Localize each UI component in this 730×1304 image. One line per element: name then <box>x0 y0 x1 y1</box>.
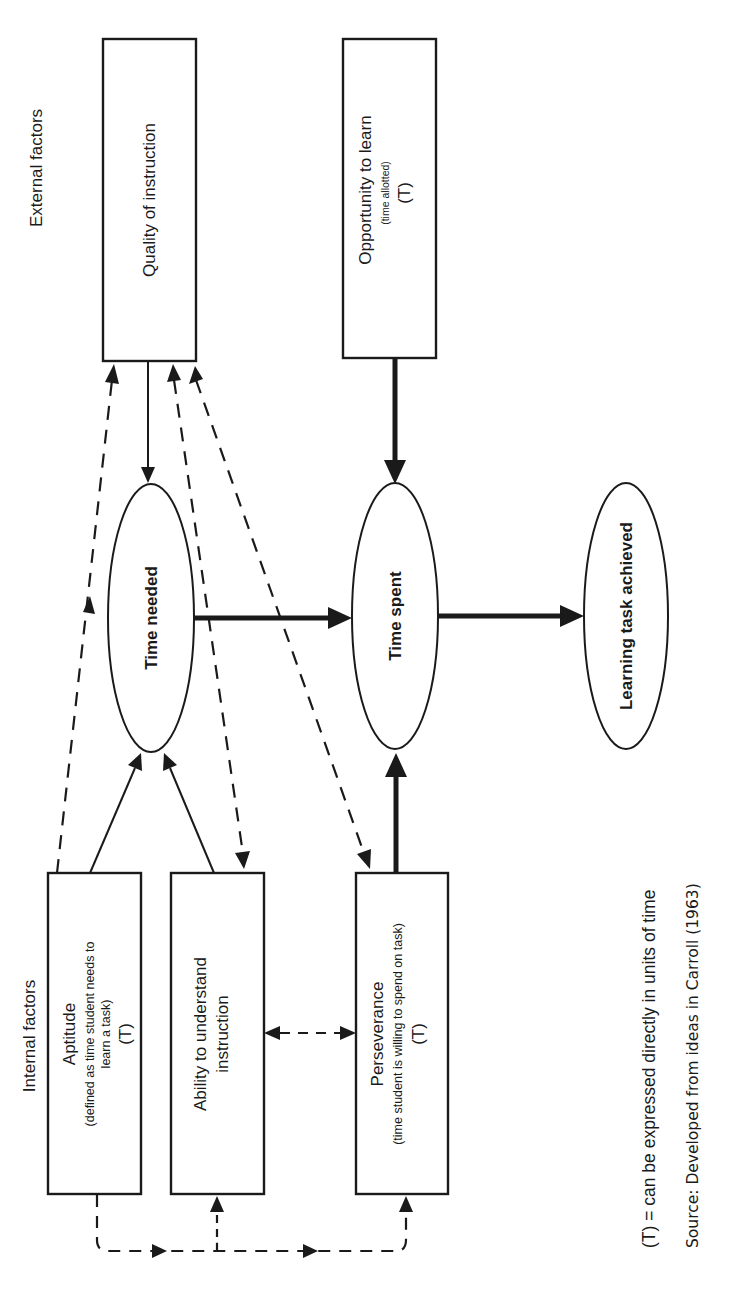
time-unit-note: (T) = can be expressed directly in units… <box>639 890 659 1248</box>
aptitude-subtitle-line2: learn a task) <box>99 1000 113 1069</box>
arrow-time-needed-to-time-spent <box>194 607 352 629</box>
node-time-needed: Time needed <box>108 484 194 752</box>
time-needed-label: Time needed <box>142 566 161 670</box>
dashed-arrow-ability-perseverance <box>264 1026 356 1040</box>
carroll-model-diagram: External factors Internal factors Qualit… <box>0 0 730 1304</box>
aptitude-label: Aptitude <box>60 1003 79 1065</box>
node-time-spent: Time spent <box>352 483 438 749</box>
arrow-perseverance-to-time-spent <box>385 753 407 873</box>
dashed-path-aptitude-to-ability-perseverance <box>97 1195 413 1258</box>
quality-label: Quality of instruction <box>140 123 159 277</box>
perseverance-label: Perseverance <box>368 982 387 1087</box>
arrow-ability-to-time-needed <box>163 753 214 873</box>
arrow-time-spent-to-learning <box>438 605 584 627</box>
node-aptitude: Aptitude (defined as time student needs … <box>48 873 141 1194</box>
source-citation: Source: Developed from ideas in Carroll … <box>684 883 702 1248</box>
node-quality-of-instruction: Quality of instruction <box>103 39 196 361</box>
opportunity-time-marker: (T) <box>395 182 414 204</box>
aptitude-time-marker: (T) <box>116 1023 135 1045</box>
arrow-opportunity-to-time-spent <box>384 358 406 484</box>
node-perseverance: Perseverance (time student is willing to… <box>356 873 448 1194</box>
ability-label-line2: instruction <box>213 995 232 1072</box>
learning-label: Learning task achieved <box>617 522 636 710</box>
node-opportunity-to-learn: Opportunity to learn (time allotted) (T) <box>343 39 436 358</box>
time-spent-label: Time spent <box>386 571 405 661</box>
opportunity-subtitle: (time allotted) <box>379 161 391 225</box>
node-learning-task-achieved: Learning task achieved <box>584 483 668 749</box>
opportunity-label: Opportunity to learn <box>356 115 375 264</box>
node-ability-to-understand: Ability to understand instruction <box>171 873 264 1194</box>
arrow-aptitude-to-time-needed <box>90 753 142 873</box>
ability-label-line1: Ability to understand <box>191 957 210 1111</box>
aptitude-subtitle-line1: (defined as time student needs to <box>83 942 97 1127</box>
external-factors-header: External factors <box>27 109 46 227</box>
arrow-quality-to-time-needed <box>141 361 155 483</box>
perseverance-subtitle: (time student is willing to spend on tas… <box>391 923 405 1145</box>
internal-factors-header: Internal factors <box>20 980 39 1092</box>
perseverance-time-marker: (T) <box>409 1023 428 1045</box>
